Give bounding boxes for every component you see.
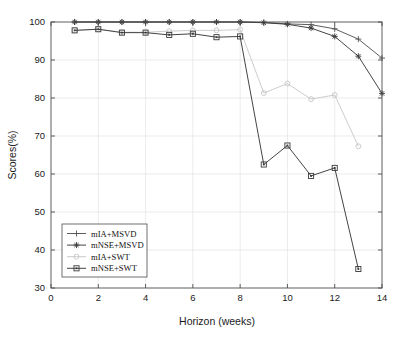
series-mia-swt bbox=[72, 27, 361, 149]
x-tick-label: 0 bbox=[48, 292, 53, 303]
data-point-marker bbox=[310, 175, 312, 177]
data-point-marker bbox=[121, 32, 123, 34]
data-point-marker bbox=[145, 32, 147, 34]
data-point-marker bbox=[216, 36, 218, 38]
line-chart: 0246810121430405060708090100 Horizon (we… bbox=[0, 0, 404, 340]
chart-figure: 0246810121430405060708090100 Horizon (we… bbox=[0, 0, 404, 340]
y-axis-title: Scores(%) bbox=[6, 130, 18, 179]
series-line bbox=[75, 29, 359, 146]
y-tick-label: 70 bbox=[34, 130, 45, 141]
data-point-marker bbox=[263, 164, 265, 166]
series-line bbox=[75, 22, 382, 58]
x-axis-title: Horizon (weeks) bbox=[179, 315, 255, 327]
chart-legend[interactable]: mIA+MSVDmNSE+MSVDmIA+SWTmNSE+SWT bbox=[62, 224, 147, 277]
series-mia-msvd bbox=[72, 19, 385, 61]
data-point-marker bbox=[192, 33, 194, 35]
legend-label: mNSE+SWT bbox=[91, 263, 138, 273]
x-tick-label: 10 bbox=[282, 292, 293, 303]
legend-label: mIA+MSVD bbox=[91, 229, 136, 239]
y-tick-label: 30 bbox=[34, 282, 45, 293]
legend-label: mIA+SWT bbox=[91, 252, 130, 262]
data-point-marker bbox=[74, 29, 76, 31]
data-point-marker bbox=[357, 268, 359, 270]
y-tick-label: 80 bbox=[34, 92, 45, 103]
x-tick-label: 6 bbox=[190, 292, 195, 303]
data-point-marker bbox=[239, 36, 241, 38]
y-tick-label: 90 bbox=[34, 54, 45, 65]
x-tick-label: 8 bbox=[237, 292, 242, 303]
y-tick-label: 50 bbox=[34, 206, 45, 217]
y-tick-label: 100 bbox=[29, 16, 45, 27]
data-point-marker bbox=[97, 28, 99, 30]
x-tick-label: 4 bbox=[143, 292, 148, 303]
legend-marker-icon bbox=[76, 267, 78, 269]
data-point-marker bbox=[168, 34, 170, 36]
y-tick-label: 40 bbox=[34, 244, 45, 255]
data-point-marker bbox=[334, 167, 336, 169]
y-tick-label: 60 bbox=[34, 168, 45, 179]
x-tick-label: 12 bbox=[329, 292, 340, 303]
legend-label: mNSE+MSVD bbox=[91, 240, 144, 250]
data-point-marker bbox=[287, 145, 289, 147]
x-tick-label: 2 bbox=[96, 292, 101, 303]
x-tick-label: 14 bbox=[377, 292, 388, 303]
